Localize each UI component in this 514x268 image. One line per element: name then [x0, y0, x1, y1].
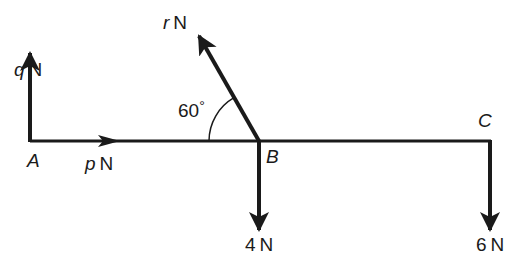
angle-arc: [209, 98, 234, 141]
label-point-c: C: [478, 110, 492, 131]
label-point-a: A: [26, 150, 40, 171]
label-r: rN: [163, 12, 187, 33]
label-q: qN: [14, 59, 42, 80]
label-p: pN: [84, 153, 113, 174]
force-diagram: qN rN 60° A pN B C 4N 6N: [0, 0, 514, 268]
label-point-b: B: [266, 146, 279, 167]
label-6n: 6N: [476, 234, 504, 255]
force-r-arrow: [199, 36, 259, 141]
label-4n: 4N: [245, 234, 273, 255]
label-angle: 60°: [178, 98, 205, 121]
